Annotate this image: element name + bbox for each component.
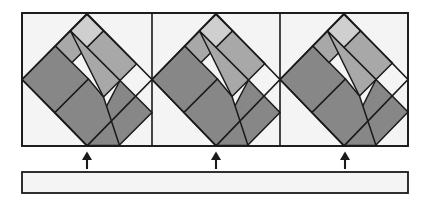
figure-root bbox=[0, 0, 428, 203]
bottom-bar bbox=[22, 172, 408, 193]
tiling-diagram-svg bbox=[0, 0, 428, 203]
tile-strip bbox=[22, 13, 408, 146]
